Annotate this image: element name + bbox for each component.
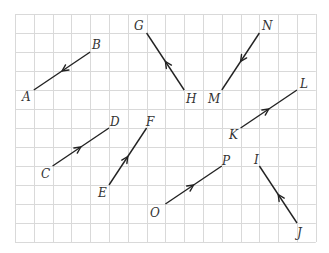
label-B: B (91, 38, 101, 52)
label-P: P (221, 154, 231, 168)
label-L: L (299, 77, 308, 91)
label-O: O (150, 206, 160, 220)
label-H: H (185, 92, 197, 106)
label-E: E (97, 186, 107, 200)
label-D: D (109, 115, 120, 129)
label-I: I (253, 153, 259, 167)
label-G: G (134, 19, 144, 33)
label-C: C (41, 167, 50, 181)
label-K: K (228, 128, 239, 142)
label-M: M (207, 92, 221, 106)
vector-EF (109, 128, 147, 185)
vector-grid-diagram: A B C D E F G H I J K L M N O P (0, 0, 329, 253)
vector-NM (222, 33, 260, 90)
grid-lines (15, 14, 317, 243)
label-J: J (294, 226, 303, 240)
label-F: F (145, 115, 155, 129)
label-A: A (21, 90, 31, 104)
label-N: N (261, 19, 273, 33)
